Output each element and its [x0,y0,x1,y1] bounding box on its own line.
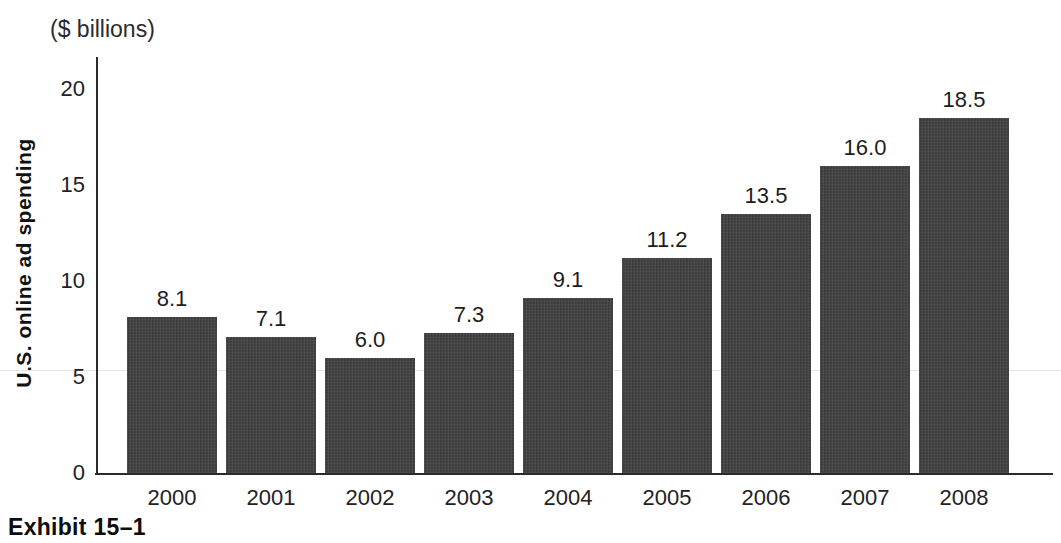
bar-2000 [127,317,217,473]
bar-2007 [820,166,910,473]
x-tick-label-2002: 2002 [321,486,420,510]
x-tick-label-2001: 2001 [222,486,321,510]
y-tick-label-20: 20 [41,77,85,101]
units-label: ($ billions) [50,16,155,43]
y-axis-line [96,57,98,474]
x-tick-label-2004: 2004 [519,486,618,510]
bar-2003 [424,333,514,473]
y-axis-title: U.S. online ad spending [12,138,36,388]
x-tick-label-2006: 2006 [717,486,816,510]
bar-2001 [226,337,316,473]
bar-2006 [721,214,811,473]
y-tick-label-15: 15 [41,173,85,197]
bar-value-label-2000: 8.1 [127,287,217,311]
bar-chart-figure: ($ billions) U.S. online ad spending 051… [0,0,1061,543]
x-tick-label-2008: 2008 [915,486,1014,510]
y-tick-label-0: 0 [41,461,85,485]
x-tick-label-2005: 2005 [618,486,717,510]
bar-value-label-2004: 9.1 [523,268,613,292]
x-tick-label-2000: 2000 [123,486,222,510]
x-tick-label-2007: 2007 [816,486,915,510]
exhibit-caption: Exhibit 15–1 [8,514,146,541]
bar-2002 [325,358,415,473]
x-tick-label-2003: 2003 [420,486,519,510]
bar-value-label-2003: 7.3 [424,303,514,327]
bar-2008 [919,118,1009,473]
bar-2005 [622,258,712,473]
bar-value-label-2005: 11.2 [622,228,712,252]
bar-value-label-2007: 16.0 [820,136,910,160]
y-tick-label-10: 10 [41,269,85,293]
bar-value-label-2008: 18.5 [919,88,1009,112]
y-tick-label-5: 5 [41,365,85,389]
bar-2004 [523,298,613,473]
x-axis-line [95,473,1053,475]
bar-value-label-2002: 6.0 [325,328,415,352]
bar-value-label-2001: 7.1 [226,307,316,331]
bar-value-label-2006: 13.5 [721,184,811,208]
